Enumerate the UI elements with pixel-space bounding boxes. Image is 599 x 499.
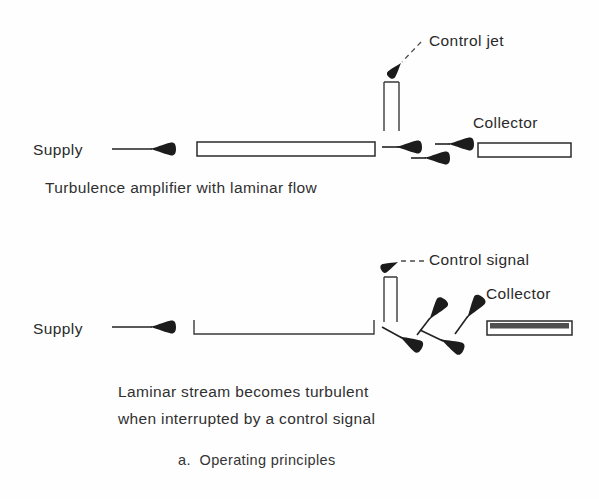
upper-panel-caption: Turbulence amplifier with laminar flow bbox=[45, 179, 317, 196]
lower-collector-label: Collector bbox=[486, 285, 551, 302]
lower-control-tube bbox=[384, 277, 397, 322]
upper-collector bbox=[478, 143, 571, 157]
upper-supply-label: Supply bbox=[33, 141, 83, 158]
upper-control-arrowhead bbox=[385, 60, 404, 80]
lower-panel-caption-line-1: Laminar stream becomes turbulent bbox=[118, 383, 369, 400]
lower-supply-nozzle bbox=[194, 320, 374, 334]
upper-stream-arrows bbox=[382, 138, 474, 165]
lower-turbulent-arrows bbox=[382, 293, 487, 356]
upper-control-tube bbox=[384, 82, 399, 131]
figure-container: Control jet Collector Supply bbox=[0, 0, 599, 499]
lower-supply-label: Supply bbox=[33, 320, 83, 337]
upper-collector-label: Collector bbox=[473, 114, 538, 131]
upper-panel: Control jet Collector Supply bbox=[33, 32, 571, 196]
lower-collector bbox=[487, 321, 572, 335]
upper-supply-nozzle bbox=[197, 142, 375, 156]
figure-caption: a. Operating principles bbox=[178, 452, 336, 468]
lower-panel-caption-line-2: when interrupted by a control signal bbox=[117, 410, 375, 427]
lower-control-arrowhead bbox=[379, 258, 400, 274]
upper-control-leader-line bbox=[402, 42, 421, 62]
upper-control-label: Control jet bbox=[429, 32, 504, 49]
operating-principles-diagram: Control jet Collector Supply bbox=[0, 0, 599, 499]
lower-panel: Control signal Collector Supply bbox=[33, 251, 572, 427]
lower-control-label: Control signal bbox=[429, 251, 529, 268]
upper-supply-arrowhead bbox=[150, 143, 176, 156]
lower-supply-arrowhead bbox=[150, 321, 176, 334]
